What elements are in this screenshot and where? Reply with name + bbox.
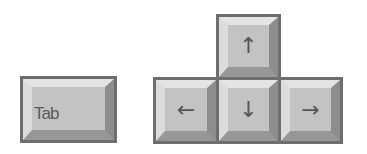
down-arrow-key[interactable]: ↓ [216, 77, 281, 144]
tab-key-label: Tab [34, 104, 58, 124]
right-arrow-key[interactable]: → [278, 77, 343, 144]
key-face: Tab [32, 87, 105, 130]
key-face: ↓ [228, 88, 269, 131]
arrow-left-icon: ← [177, 99, 195, 121]
tab-key[interactable]: Tab [20, 76, 117, 143]
arrow-right-icon: → [301, 99, 319, 121]
arrow-up-icon: ↑ [239, 35, 257, 57]
arrow-down-icon: ↓ [239, 99, 257, 121]
key-face: ← [165, 88, 207, 131]
left-arrow-key[interactable]: ← [153, 77, 219, 144]
up-arrow-key[interactable]: ↑ [216, 14, 281, 80]
key-face: ↑ [228, 25, 269, 67]
key-face: → [290, 88, 331, 131]
